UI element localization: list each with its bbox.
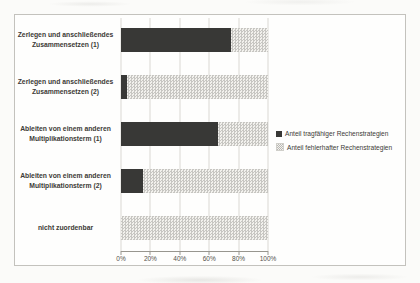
legend-item-fehlerhaft: Anteil fehlerhafter Rechenstrategien xyxy=(276,143,404,151)
chart-frame: Zerlegen und anschließendesZusammensetze… xyxy=(14,14,406,266)
plot-area: 0%20%40%60%80%100% xyxy=(121,15,268,252)
category-label-line: Zusammensetzen (2) xyxy=(32,87,99,97)
category-label-line: Zerlegen und anschließendes xyxy=(18,30,114,40)
x-axis-tick-label: 20% xyxy=(144,255,157,262)
bar-segment-fehlerhaft xyxy=(121,216,268,240)
category-label-line: Multiplikationsterm (2) xyxy=(29,181,102,191)
x-axis-tick-label: 40% xyxy=(173,255,186,262)
category-label: Zerlegen und anschließendesZusammensetze… xyxy=(15,28,120,52)
legend-item-tragfaehig: Anteil tragfähiger Rechenstrategien xyxy=(276,130,404,137)
bar-segment-tragfaehig xyxy=(121,169,143,193)
legend-marker-pattern-square-icon xyxy=(276,143,284,151)
bar-row xyxy=(121,216,268,240)
legend-label-tragfaehig: Anteil tragfähiger Rechenstrategien xyxy=(285,130,388,137)
category-label-line: Multiplikationsterm (1) xyxy=(29,134,102,144)
bar-segment-fehlerhaft xyxy=(231,28,268,52)
category-label-line: Zusammensetzen (1) xyxy=(32,40,99,50)
category-label-line: Ableiten von einem anderen xyxy=(20,124,111,134)
legend-marker-solid-square-icon xyxy=(276,131,282,137)
category-label-line: Ableiten von einem anderen xyxy=(20,171,111,181)
bar-segment-tragfaehig xyxy=(121,28,231,52)
category-label: Ableiten von einem anderenMultiplikation… xyxy=(15,169,120,193)
category-label: Ableiten von einem anderenMultiplikation… xyxy=(15,122,120,146)
category-label: Zerlegen und anschließendesZusammensetze… xyxy=(15,75,120,99)
category-label: nicht zuordenbar xyxy=(15,216,120,240)
bar-row xyxy=(121,75,268,99)
bar-segment-fehlerhaft xyxy=(127,75,268,99)
bar-segment-fehlerhaft xyxy=(143,169,268,193)
category-label-line: Zerlegen und anschließendes xyxy=(18,77,114,87)
x-axis-tick-label: 60% xyxy=(203,255,216,262)
bar-row xyxy=(121,28,268,52)
category-label-line: nicht zuordenbar xyxy=(38,223,93,233)
legend: Anteil tragfähiger Rechenstrategien Ante… xyxy=(276,130,404,157)
bar-row xyxy=(121,122,268,146)
category-labels: Zerlegen und anschließendesZusammensetze… xyxy=(15,15,120,251)
x-axis-tick-label: 100% xyxy=(260,255,277,262)
legend-label-fehlerhaft: Anteil fehlerhafter Rechenstrategien xyxy=(287,144,392,151)
x-axis-tick-label: 0% xyxy=(116,255,125,262)
bar-row xyxy=(121,169,268,193)
bar-segment-fehlerhaft xyxy=(218,122,268,146)
bar-segment-tragfaehig xyxy=(121,122,218,146)
x-axis-tick-label: 80% xyxy=(232,255,245,262)
